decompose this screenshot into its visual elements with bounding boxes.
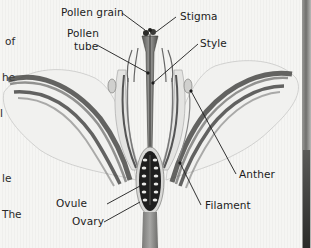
label-ovule: Ovule <box>56 197 87 209</box>
leader-pollen-tube <box>97 45 148 73</box>
label-pollen-tube-line2: tube <box>74 40 98 52</box>
pistil <box>136 28 164 248</box>
label-anther: Anther <box>239 168 275 180</box>
label-pollen-tube-line1: Pollen <box>67 27 99 39</box>
pollen-grain-shape <box>148 28 152 32</box>
leader-ovary <box>104 202 140 222</box>
leader-ovule <box>107 186 140 204</box>
label-stigma: Stigma <box>180 10 218 22</box>
label-filament: Filament <box>205 199 251 211</box>
label-style: Style <box>200 37 227 49</box>
stem-shape <box>142 212 158 248</box>
stigma-shape <box>143 30 149 36</box>
leader-stigma <box>156 17 176 32</box>
leader-pollen-grain <box>122 13 145 30</box>
label-pollen-grain: Pollen grain <box>61 6 124 18</box>
label-ovary: Ovary <box>72 215 104 227</box>
flower-diagram <box>0 0 311 248</box>
